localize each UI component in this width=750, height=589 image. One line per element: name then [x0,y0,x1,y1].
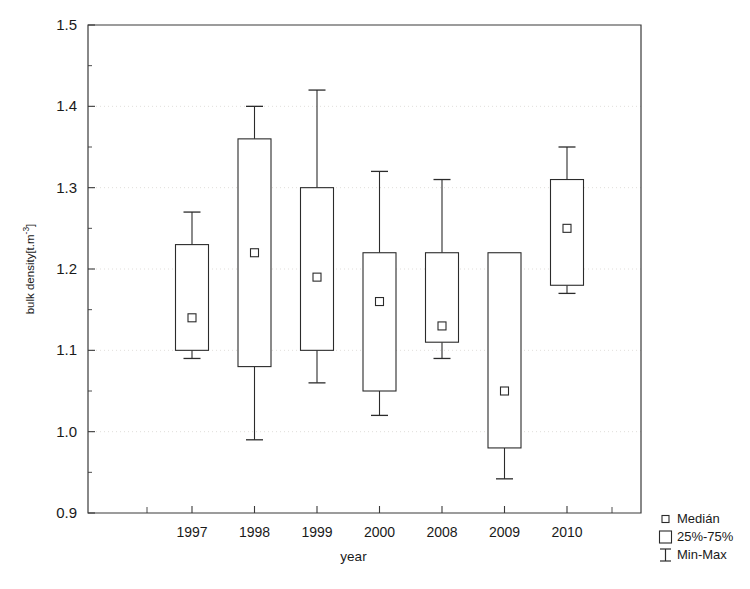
legend-item: Min-Max [660,547,727,562]
box-plot-chart: 1.51.41.31.21.11.00.9 199719981999200020… [0,0,750,589]
y-tick-label: 1.1 [56,341,77,358]
x-tick-label: 2008 [426,524,457,540]
y-tick-label: 0.9 [56,504,77,521]
box-plot-group [426,180,459,359]
box-plot-group [551,147,584,293]
y-tick-label: 1.5 [56,16,77,33]
quartile-box [301,188,334,351]
legend-quartile-box-icon [660,531,672,543]
plot-canvas: 1.51.41.31.21.11.00.9 199719981999200020… [0,0,750,589]
quartile-box [176,245,209,351]
median-marker [313,273,321,281]
legend-item: Medián [662,511,720,526]
legend-label: Min-Max [677,547,727,562]
x-tick-label: 2010 [551,524,582,540]
x-tick-label: 2000 [364,524,395,540]
box-series [176,90,584,479]
box-plot-group [488,253,521,479]
box-plot-group [238,106,271,439]
median-marker [251,249,259,257]
x-tick-label: 1997 [176,524,207,540]
quartile-box [488,253,521,448]
legend-label: 25%-75% [677,529,734,544]
x-axis-title-text: year [340,549,367,564]
y-axis-ticks: 1.51.41.31.21.11.00.9 [56,16,95,521]
box-plot-group [301,90,334,383]
box-plot-group [176,212,209,358]
median-marker [188,314,196,322]
median-marker [376,298,384,306]
median-marker [563,224,571,232]
y-axis-title-text: bulk density[t.m-3] [21,224,36,315]
median-marker [501,387,509,395]
y-tick-label: 1.0 [56,423,77,440]
legend-median-square-icon [662,516,669,523]
y-tick-label: 1.2 [56,260,77,277]
y-tick-label: 1.4 [56,97,77,114]
legend-item: 25%-75% [660,529,734,544]
x-axis-ticks: 1997199819992000200820092010 [147,506,612,540]
x-tick-label: 1999 [301,524,332,540]
median-marker [438,322,446,330]
y-axis-title: bulk density[t.m-3] [21,224,36,315]
legend: Medián25%-75%Min-Max [660,511,734,562]
x-tick-label: 2009 [489,524,520,540]
y-tick-label: 1.3 [56,179,77,196]
x-tick-label: 1998 [239,524,270,540]
box-plot-group [363,171,396,415]
quartile-box [363,253,396,391]
x-axis-title: year [340,549,367,564]
legend-label: Medián [677,511,720,526]
